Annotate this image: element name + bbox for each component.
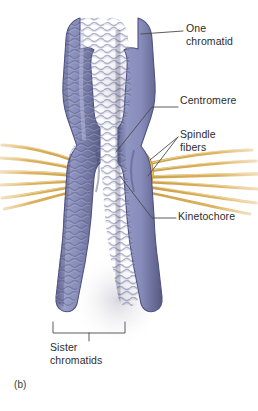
chromosome-illustration [0,0,258,411]
label-kinetochore: Kinetochore [178,210,235,223]
figure-panel-label: (b) [14,379,27,392]
chromosome-figure: One chromatid Centromere Spindle fibers … [0,0,258,411]
label-one-chromatid: One chromatid [186,22,233,47]
label-spindle-fibers: Spindle fibers [180,128,216,153]
spindle-fibers-right [146,149,258,214]
label-sister-chromatids: Sister chromatids [50,341,102,366]
label-centromere: Centromere [180,94,236,107]
leader-spindle-2 [150,137,178,160]
